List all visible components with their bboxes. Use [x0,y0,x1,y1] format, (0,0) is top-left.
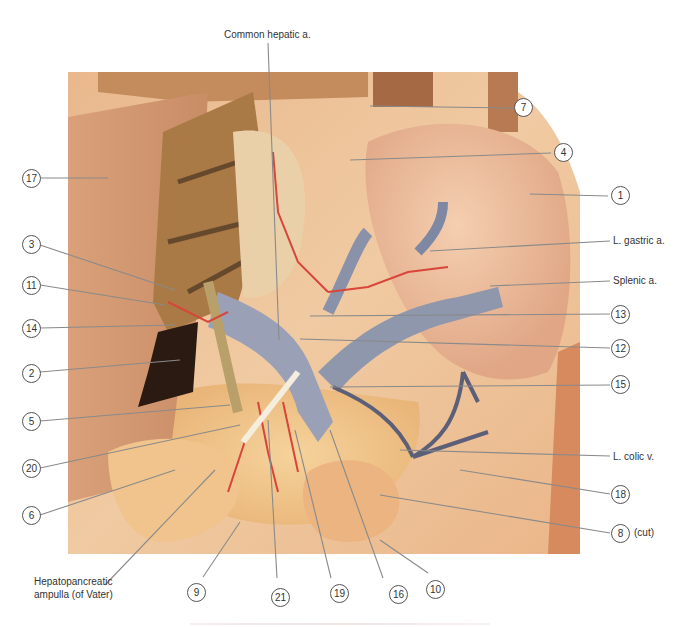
anatomical-figure: Common hepatic a. 7 4 1 L. gastric a. Sp… [0,0,682,627]
label-left-gastric-artery: L. gastric a. [613,235,665,247]
label-4: 4 [554,143,573,162]
leader-lines [0,0,682,627]
label-18: 18 [611,485,630,504]
label-9: 9 [187,583,206,602]
label-left-colic-vein: L. colic v. [613,451,654,463]
label-12: 12 [611,339,630,358]
label-19: 19 [330,584,349,603]
label-17: 17 [22,169,41,188]
label-1: 1 [611,186,630,205]
faint-footer-bar [190,623,490,625]
label-15: 15 [611,375,630,394]
label-5: 5 [22,412,41,431]
label-14: 14 [22,319,41,338]
label-3: 3 [22,235,41,254]
label-10: 10 [426,580,445,599]
label-20: 20 [22,459,41,478]
label-16: 16 [389,585,408,604]
label-splenic-artery: Splenic a. [613,275,657,287]
label-hepatopancreatic-ampulla-line1: Hepatopancreatic [34,576,112,588]
label-8: 8 [611,524,630,543]
label-8-suffix-cut: (cut) [634,527,654,538]
label-13: 13 [611,305,630,324]
label-11: 11 [22,276,41,295]
label-2: 2 [22,364,41,383]
label-6: 6 [22,506,41,525]
label-7: 7 [514,98,533,117]
label-common-hepatic-artery: Common hepatic a. [224,29,311,41]
label-hepatopancreatic-ampulla-line2: ampulla (of Vater) [34,589,113,601]
label-21: 21 [271,588,290,607]
